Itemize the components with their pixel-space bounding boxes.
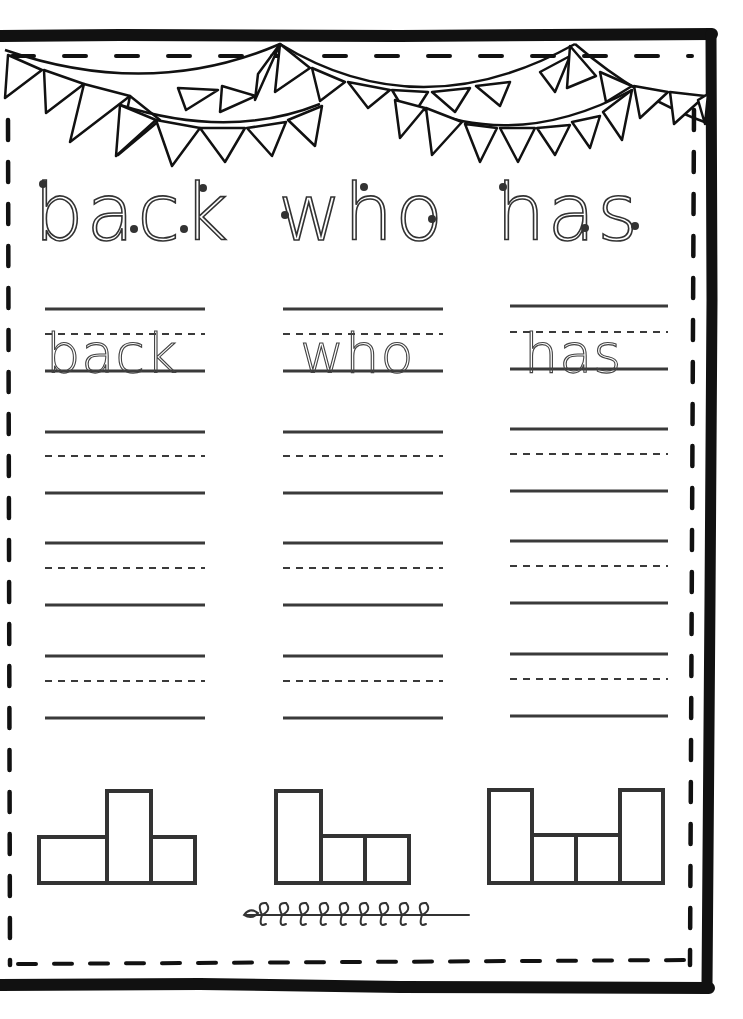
worksheet-frame (0, 0, 743, 1019)
shape-who (276, 791, 409, 883)
practice-area-back-2[interactable] (45, 537, 205, 609)
trace-word-has-large: has (496, 168, 640, 258)
practice-area-back-1[interactable] (45, 425, 205, 497)
practice-area-who-1[interactable] (283, 425, 443, 497)
trace-word-back-large: back (34, 168, 231, 258)
trace-word-back-small: back (46, 322, 178, 385)
shape-back (39, 791, 195, 883)
shape-has (489, 790, 663, 883)
trace-word-who-large: who (278, 168, 445, 258)
practice-area-has-3[interactable] (510, 648, 668, 720)
leaf-vine-icon (244, 903, 469, 925)
word-shape-boxes (39, 790, 663, 883)
practice-area-who-3[interactable] (283, 650, 443, 722)
trace-word-has-small: has (524, 322, 622, 385)
practice-area-has-1[interactable] (510, 423, 668, 495)
practice-area-who-2[interactable] (283, 537, 443, 609)
trace-word-who-small: who (300, 322, 414, 385)
bunting-banner (5, 44, 710, 166)
practice-area-back-3[interactable] (45, 650, 205, 722)
practice-area-has-2[interactable] (510, 535, 668, 607)
